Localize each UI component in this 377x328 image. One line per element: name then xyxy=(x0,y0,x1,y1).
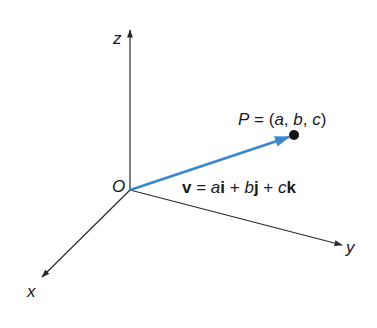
point-p-name: P xyxy=(238,110,250,129)
x-axis-label: x xyxy=(26,282,36,301)
scalar-b: b xyxy=(244,178,253,197)
eq: = xyxy=(191,178,210,197)
coord-a: a xyxy=(274,110,283,129)
point-label: P = (a, b, c) xyxy=(238,110,326,129)
plus: + xyxy=(225,178,244,197)
coord-b: b xyxy=(293,110,302,129)
sep: , xyxy=(284,110,293,129)
sep: , xyxy=(303,110,312,129)
point-p xyxy=(289,130,299,140)
origin-label: O xyxy=(112,177,125,196)
y-axis-label: y xyxy=(345,238,356,257)
unit-k: k xyxy=(287,178,297,197)
vector-equation: v = ai + bj + ck xyxy=(182,178,297,197)
y-axis xyxy=(130,190,342,245)
point-eq: = ( xyxy=(249,110,274,129)
z-axis-label: z xyxy=(112,29,122,48)
vector-diagram: z x y O P = (a, b, c) v = ai + bj + ck xyxy=(0,0,377,328)
x-axis xyxy=(42,190,130,277)
scalar-a: a xyxy=(211,178,220,197)
plus: + xyxy=(259,178,278,197)
close-paren: ) xyxy=(321,110,327,129)
